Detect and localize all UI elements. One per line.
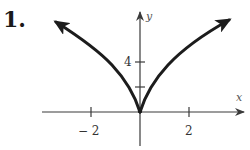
x-tick-label-neg2: − 2: [78, 124, 100, 138]
y-axis-label: y: [145, 10, 153, 23]
graph: − 2 2 4 x y: [0, 0, 250, 150]
cusp-point: [138, 109, 142, 113]
curve-right-branch: [140, 20, 229, 112]
y-tick-label-4: 4: [124, 55, 132, 69]
x-axis-label: x: [236, 91, 243, 104]
x-tick-label-2: 2: [185, 124, 193, 138]
